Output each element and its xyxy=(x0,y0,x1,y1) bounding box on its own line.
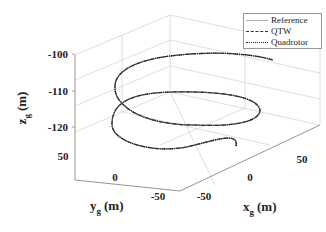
reference-trace xyxy=(112,53,273,149)
quadrotor-trace xyxy=(112,53,273,149)
dotted-line-icon xyxy=(246,42,268,43)
dash-dot-line-icon xyxy=(246,31,268,32)
x-tick-label: 50 xyxy=(297,153,309,165)
z-axis-label: zg(m) xyxy=(14,92,32,125)
legend-item-reference: Reference xyxy=(246,15,307,25)
x-axis-label: xg(m) xyxy=(243,199,277,217)
svg-text:xg(m): xg(m) xyxy=(243,199,277,217)
x-tick-label: 0 xyxy=(247,171,253,183)
legend-item-quadrotor: Quadrotor xyxy=(246,37,308,47)
y-tick-label: -50 xyxy=(151,190,166,202)
svg-text:yg(m): yg(m) xyxy=(90,198,124,216)
z-tick-label: -100 xyxy=(48,48,69,60)
y-tick-label: 50 xyxy=(58,150,70,162)
z-tick-label: -120 xyxy=(48,121,69,133)
x-tick-label: -50 xyxy=(197,190,212,202)
qtw-trace xyxy=(112,53,273,149)
legend-label: Quadrotor xyxy=(271,37,308,47)
solid-line-icon xyxy=(246,20,268,21)
z-tick-label: -110 xyxy=(48,85,68,97)
legend-label: QTW xyxy=(271,26,292,36)
y-axis-label: yg(m) xyxy=(90,198,124,216)
legend-label: Reference xyxy=(271,15,307,25)
legend: Reference QTW Quadrotor xyxy=(243,13,322,49)
legend-item-qtw: QTW xyxy=(246,26,292,36)
y-tick-label: 0 xyxy=(112,171,118,183)
svg-text:zg(m): zg(m) xyxy=(14,92,32,125)
trajectory-traces xyxy=(112,53,273,149)
